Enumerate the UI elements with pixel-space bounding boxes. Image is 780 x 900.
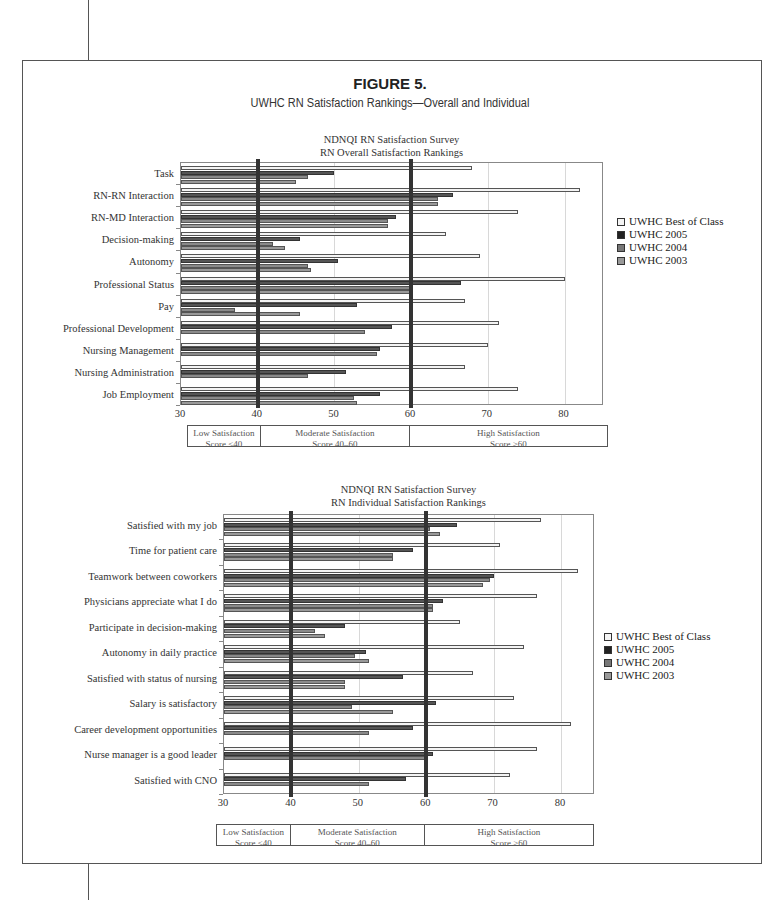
bar-2004 <box>181 352 377 356</box>
category-label: Satisfied with my job <box>12 520 217 531</box>
chart-legend: UWHC Best of ClassUWHC 2005UWHC 2004UWHC… <box>604 630 710 682</box>
x-tick-label: 30 <box>175 408 186 419</box>
chart-title: NDNQI RN Satisfaction SurveyRN Overall S… <box>160 133 623 159</box>
x-tick-label: 70 <box>482 408 493 419</box>
category-label: Salary is satisfactory <box>12 698 217 709</box>
bar-2003 <box>181 290 411 294</box>
bar-best-of-class <box>224 543 500 547</box>
chart-title-line: NDNQI RN Satisfaction Survey <box>203 483 614 496</box>
threshold-line-60 <box>424 511 428 797</box>
bar-2004 <box>181 264 308 268</box>
legend-label: UWHC 2005 <box>629 228 687 241</box>
bar-2004 <box>224 578 490 582</box>
bar-2004 <box>224 527 430 531</box>
bar-2004 <box>181 308 235 312</box>
figure-subtitle: UWHC RN Satisfaction Rankings—Overall an… <box>47 96 733 110</box>
bar-2003 <box>224 634 325 638</box>
bar-2004 <box>181 197 438 201</box>
category-label: Career development opportunities <box>12 724 217 735</box>
plot-area <box>223 514 594 794</box>
zone-label: High Satisfaction <box>425 827 593 838</box>
bar-2005 <box>181 370 346 374</box>
bar-2004 <box>224 782 369 786</box>
y-tick <box>219 769 223 770</box>
zone-score: Score 40–60 <box>261 439 409 450</box>
category-label: Professional Status <box>4 279 174 290</box>
x-tick-label: 60 <box>405 408 416 419</box>
bar-2004 <box>181 286 411 290</box>
bar-best-of-class <box>181 210 518 214</box>
chart-subtitle-line: RN Individual Satisfaction Rankings <box>203 496 614 509</box>
bar-best-of-class <box>181 166 472 170</box>
y-tick <box>219 667 223 668</box>
bar-2004 <box>224 604 433 608</box>
legend-item-2003: UWHC 2003 <box>617 254 723 267</box>
y-tick <box>219 565 223 566</box>
category-label: Autonomy <box>4 256 174 267</box>
bar-2003 <box>181 180 296 184</box>
bar-best-of-class <box>224 594 537 598</box>
y-tick <box>176 339 180 340</box>
y-tick <box>176 317 180 318</box>
zone-high: High SatisfactionScore >60 <box>410 426 607 446</box>
gridline <box>565 163 566 404</box>
bar-2005 <box>224 523 457 527</box>
legend-item-2004: UWHC 2004 <box>604 656 710 669</box>
legend-swatch-icon <box>604 659 612 667</box>
bar-2005 <box>224 675 403 679</box>
bar-best-of-class <box>181 365 465 369</box>
bar-2004 <box>181 175 308 179</box>
category-label: Nursing Management <box>4 345 174 356</box>
bar-2005 <box>224 701 436 705</box>
chart-legend: UWHC Best of ClassUWHC 2005UWHC 2004UWHC… <box>617 215 723 267</box>
zone-score: Score <40 <box>217 838 290 849</box>
y-tick <box>176 295 180 296</box>
bar-2003 <box>181 224 388 228</box>
category-label: Decision-making <box>4 234 174 245</box>
legend-item-best-of-class: UWHC Best of Class <box>617 215 723 228</box>
bar-2003 <box>181 268 311 272</box>
legend-item-2005: UWHC 2005 <box>604 643 710 656</box>
x-tick-label: 70 <box>487 797 498 808</box>
y-tick <box>219 743 223 744</box>
category-label: RN-RN Interaction <box>4 190 174 201</box>
bar-2005 <box>224 726 413 730</box>
category-label: Job Employment <box>4 389 174 400</box>
plot-area <box>180 162 603 405</box>
bar-2003 <box>224 557 393 561</box>
bar-best-of-class <box>181 232 446 236</box>
bar-2003 <box>181 401 357 405</box>
zone-score: Score 40–60 <box>291 838 424 849</box>
bar-2004 <box>181 374 308 378</box>
bar-best-of-class <box>181 321 499 325</box>
category-label: Participate in decision-making <box>12 622 217 633</box>
y-tick <box>176 361 180 362</box>
y-tick <box>176 383 180 384</box>
bar-2005 <box>181 347 380 351</box>
legend-swatch-icon <box>617 257 625 265</box>
bar-2005 <box>181 325 392 329</box>
bar-best-of-class <box>181 299 465 303</box>
y-tick <box>219 692 223 693</box>
bar-2005 <box>224 624 345 628</box>
category-label: Professional Development <box>4 323 174 334</box>
bar-2003 <box>224 583 483 587</box>
category-label: Satisfied with CNO <box>12 775 217 786</box>
bar-2005 <box>224 650 366 654</box>
bar-best-of-class <box>181 188 580 192</box>
y-tick <box>176 206 180 207</box>
legend-swatch-icon <box>617 231 625 239</box>
bar-best-of-class <box>181 254 480 258</box>
x-tick-label: 80 <box>558 408 569 419</box>
bar-2003 <box>224 685 345 689</box>
x-tick-label: 50 <box>328 408 339 419</box>
bar-2005 <box>181 392 380 396</box>
bar-2003 <box>224 710 393 714</box>
bar-2003 <box>181 202 438 206</box>
legend-item-2004: UWHC 2004 <box>617 241 723 254</box>
bar-2005 <box>181 281 461 285</box>
bar-2003 <box>224 659 369 663</box>
category-label: Teamwork between coworkers <box>12 571 217 582</box>
bar-2004 <box>224 705 352 709</box>
bar-2004 <box>224 731 369 735</box>
